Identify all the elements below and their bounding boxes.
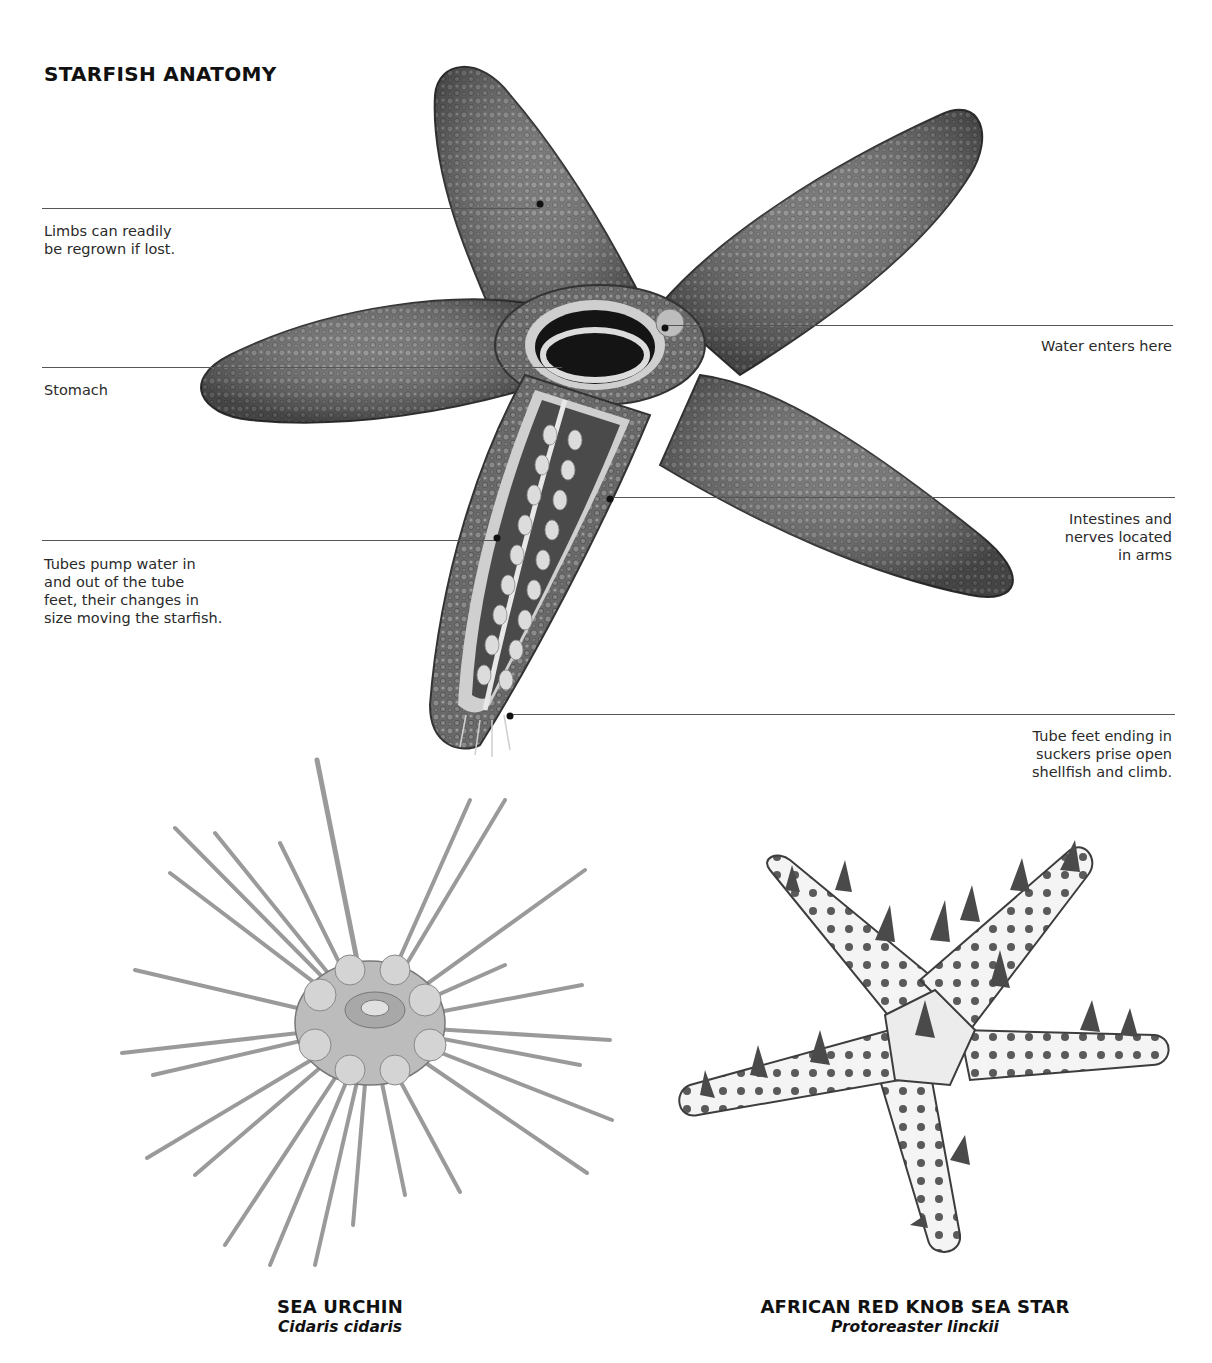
- pointer-dot-tube-feet: [507, 713, 514, 720]
- leader-line-stomach: [42, 367, 562, 368]
- leader-line-intestines: [610, 497, 1175, 498]
- caption-red-knob-sea-star: AFRICAN RED KNOB SEA STAR Protoreaster l…: [730, 1296, 1100, 1336]
- label-limbs: Limbs can readily be regrown if lost.: [44, 222, 175, 258]
- caption-sea-urchin: SEA URCHIN Cidaris cidaris: [255, 1296, 425, 1336]
- madreporite: [656, 309, 684, 337]
- common-name: AFRICAN RED KNOB SEA STAR: [730, 1296, 1100, 1317]
- label-intestines: Intestines and nerves located in arms: [1065, 510, 1172, 564]
- latin-name: Cidaris cidaris: [255, 1318, 425, 1336]
- label-stomach: Stomach: [44, 381, 108, 399]
- cutaway-arm: [430, 375, 650, 757]
- pointer-dot-intestines: [607, 496, 614, 503]
- sea-urchin-illustration: [120, 755, 620, 1275]
- pointer-dot-water: [662, 325, 669, 332]
- stomach-cutaway: [525, 300, 665, 390]
- leader-line-limbs: [42, 208, 540, 209]
- leader-line-water: [665, 325, 1173, 326]
- label-tubes: Tubes pump water in and out of the tube …: [44, 555, 222, 627]
- pointer-dot-tubes: [494, 535, 501, 542]
- sea-star-arms: [679, 847, 1168, 1252]
- starfish-anatomy-illustration: [180, 55, 1050, 765]
- latin-name: Protoreaster linckii: [730, 1318, 1100, 1336]
- label-water: Water enters here: [1041, 337, 1172, 355]
- red-knob-sea-star-illustration: [660, 830, 1190, 1270]
- label-tube-feet: Tube feet ending in suckers prise open s…: [1032, 727, 1172, 781]
- common-name: SEA URCHIN: [255, 1296, 425, 1317]
- leader-line-tubes: [42, 540, 497, 541]
- pointer-dot-limbs: [537, 201, 544, 208]
- leader-line-tube-feet: [510, 714, 1175, 715]
